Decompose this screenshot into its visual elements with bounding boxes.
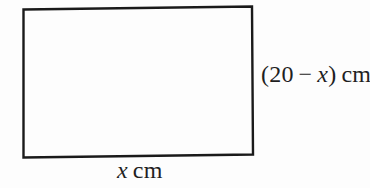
bottom-side-dimension-label: x cm [117, 158, 163, 182]
rectangle-svg [0, 0, 370, 188]
right-label-variable-x: x [317, 61, 328, 87]
figure-canvas: (20 − x) cm x cm [0, 0, 370, 188]
bottom-label-suffix: cm [128, 157, 163, 183]
bottom-label-variable-x: x [117, 157, 128, 183]
right-label-prefix: (20 − [261, 61, 317, 87]
rectangle-shape [24, 7, 254, 158]
right-label-suffix: ) cm [328, 61, 370, 87]
right-side-dimension-label: (20 − x) cm [261, 62, 370, 86]
